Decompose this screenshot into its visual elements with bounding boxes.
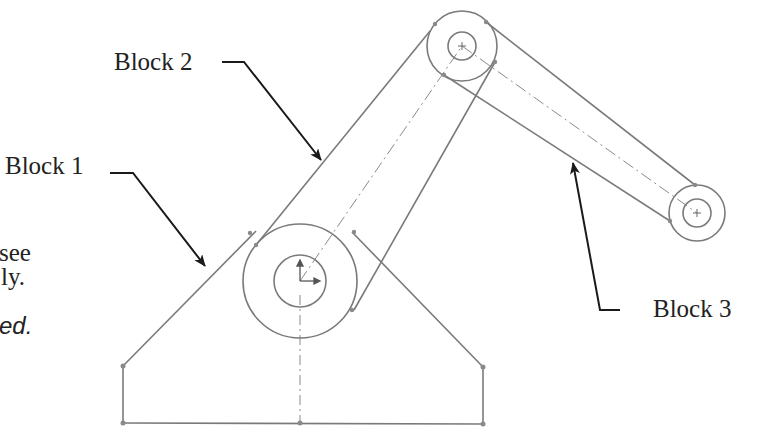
cropped-text-line-2: ly. — [1, 264, 25, 289]
block-2-label: Block 2 — [114, 49, 192, 74]
pivot-center-marks — [458, 42, 701, 217]
block-2-shape — [243, 11, 497, 338]
block-3-centerline — [462, 46, 697, 213]
block-1-leader — [110, 173, 205, 266]
block-3-label: Block 3 — [653, 296, 731, 321]
cropped-text-line-1: see — [0, 240, 31, 265]
sketch-points — [121, 20, 698, 427]
block-2-leader — [222, 62, 321, 160]
cropped-text-line-3: ed. — [0, 314, 32, 338]
origin-axes-icon — [297, 260, 320, 284]
block-3-shape — [444, 22, 725, 241]
block-1-shape — [123, 231, 483, 424]
block-1-label: Block 1 — [5, 153, 83, 178]
sketch-diagram: Block 2 Block 1 Block 3 see ly. ed. — [0, 0, 766, 435]
